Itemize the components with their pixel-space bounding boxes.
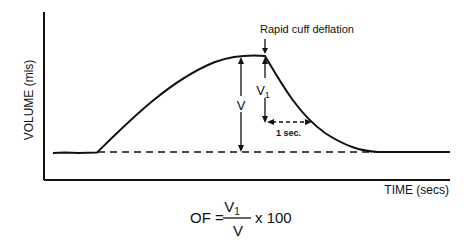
formula-multiplier: x 100 — [255, 209, 292, 226]
v-label: V — [237, 98, 246, 113]
formula: OF = V1 V x 100 — [190, 198, 292, 239]
formula-lhs: OF = — [190, 209, 224, 226]
v1-arrowhead-bottom — [262, 116, 268, 123]
deflation-label: Rapid cuff deflation — [260, 23, 354, 35]
deflation-arrowhead — [262, 48, 268, 54]
interval-arrowhead-left — [267, 119, 274, 125]
v-arrowhead-top — [238, 57, 244, 64]
x-axis-label: TIME (secs) — [384, 183, 449, 197]
interval-label: 1 sec. — [276, 128, 301, 138]
v-arrowhead-bottom — [238, 145, 244, 152]
volume-curve — [53, 56, 450, 153]
volume-time-diagram: VOLUME (mls) TIME (secs) Rapid cuff defl… — [0, 0, 470, 250]
formula-numerator: V1 — [224, 198, 240, 217]
y-axis-label: VOLUME (mls) — [22, 60, 36, 141]
formula-denominator: V — [233, 222, 243, 239]
